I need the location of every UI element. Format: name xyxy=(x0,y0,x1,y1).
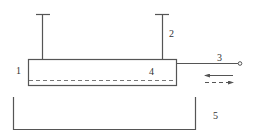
left-support-rod xyxy=(36,15,50,60)
horizontal-rod xyxy=(177,62,242,66)
diagram-canvas: 1 2 3 4 5 xyxy=(0,0,256,140)
tank xyxy=(14,97,196,130)
right-support-rod xyxy=(155,15,169,60)
label-5: 5 xyxy=(213,110,218,121)
label-4: 4 xyxy=(149,66,154,77)
label-3: 3 xyxy=(217,52,222,63)
plate-body xyxy=(29,60,177,86)
label-1: 1 xyxy=(16,65,21,76)
label-2: 2 xyxy=(169,28,174,39)
terminal-circle xyxy=(238,62,242,66)
